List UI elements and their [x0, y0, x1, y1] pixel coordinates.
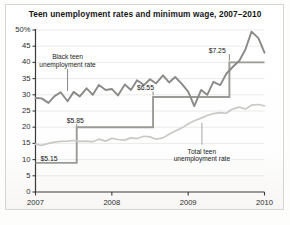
y-tick-10: 10 — [22, 155, 30, 164]
y-tick-0: 0 — [26, 187, 30, 196]
y-tick-50: 50% — [15, 25, 30, 34]
y-tick-45: 45 — [22, 41, 30, 50]
wage-585-label: $5.85 — [67, 117, 84, 124]
wage-515-label: $5.15 — [41, 155, 58, 162]
total-teen-annotation-line2: unemployment rate — [174, 155, 230, 162]
y-tick-20: 20 — [22, 122, 30, 131]
wage-725-label: $7.25 — [209, 47, 226, 54]
total-teen-annotation-line1: Total teen — [188, 148, 217, 155]
y-tick-15: 15 — [22, 138, 30, 147]
x-tick-2008: 2008 — [92, 198, 132, 207]
y-tick-40: 40 — [22, 57, 30, 66]
minimum-wage-step-line — [36, 62, 265, 162]
y-tick-35: 35 — [22, 74, 30, 83]
y-tick-5: 5 — [26, 171, 30, 180]
x-tick-2009: 2009 — [168, 198, 208, 207]
wage-655-label: $6.55 — [137, 84, 154, 91]
x-tick-2007: 2007 — [16, 198, 56, 207]
y-tick-25: 25 — [22, 106, 30, 115]
plot-area — [0, 0, 290, 225]
black-teen-annotation-line2: unemployment rate — [39, 61, 95, 68]
black-teen-annotation: Black teen unemployment rate — [39, 53, 95, 69]
y-tick-30: 30 — [22, 90, 30, 99]
total-teen-annotation: Total teen unemployment rate — [174, 148, 230, 164]
x-tick-2010: 2010 — [245, 198, 285, 207]
chart-figure: Teen unemployment rates and minimum wage… — [0, 0, 290, 225]
black-teen-annotation-line1: Black teen — [52, 53, 83, 60]
